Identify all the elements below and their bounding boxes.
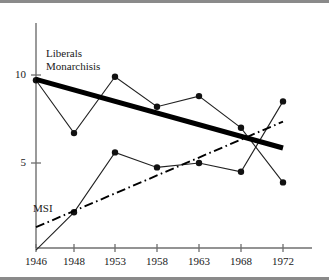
trendline-liberals-monarchisis <box>36 79 283 148</box>
series-label-liberals-line1: Liberals <box>46 47 100 60</box>
data-point <box>112 149 118 155</box>
data-point <box>196 160 202 166</box>
x-axis-tick-label-1946: 1946 <box>19 256 53 267</box>
x-axis-tick-label-1958: 1958 <box>140 256 174 267</box>
series-label-msi: MSI <box>33 202 53 215</box>
data-point <box>154 164 160 170</box>
x-axis-tick-label-1953: 1953 <box>98 256 132 267</box>
chart-plot-area <box>0 3 329 280</box>
x-axis-tick-label-1972: 1972 <box>266 256 300 267</box>
data-point <box>280 98 286 104</box>
series-msi-line <box>36 101 283 250</box>
chart-figure: Liberals Monarchisis MSI 10 5 1946 1948 … <box>0 0 329 280</box>
data-point <box>112 74 118 80</box>
data-point <box>196 93 202 99</box>
data-point <box>238 169 244 175</box>
data-point <box>154 104 160 110</box>
series-label-liberals-line2: Monarchisis <box>46 60 100 73</box>
x-axis-tick-label-1963: 1963 <box>182 256 216 267</box>
series-label-liberals-monarchisis: Liberals Monarchisis <box>46 47 100 73</box>
data-point <box>238 125 244 131</box>
data-point <box>280 179 286 185</box>
data-point <box>71 130 77 136</box>
y-axis-tick-label-5: 5 <box>8 157 26 168</box>
trendline-msi <box>36 122 283 228</box>
x-axis-tick-label-1968: 1968 <box>224 256 258 267</box>
y-axis-tick-label-10: 10 <box>8 69 26 80</box>
x-axis-tick-label-1948: 1948 <box>57 256 91 267</box>
